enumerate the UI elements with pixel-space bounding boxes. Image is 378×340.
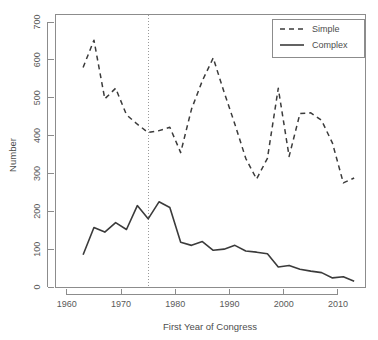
y-tick-label: 700	[32, 14, 42, 29]
y-tick-label: 300	[32, 166, 42, 181]
series-line-complex	[83, 202, 354, 282]
series-line-simple	[83, 40, 354, 183]
x-tick-label: 1990	[219, 299, 239, 309]
x-tick-label: 2000	[274, 299, 294, 309]
chart-legend: SimpleComplex	[273, 20, 365, 58]
x-tick-label: 1970	[111, 299, 131, 309]
x-tick-label: 2010	[328, 299, 348, 309]
x-axis: 196019701980199020002010	[57, 289, 348, 310]
y-tick-label: 200	[32, 204, 42, 219]
y-tick-label: 600	[32, 52, 42, 67]
y-tick-label: 500	[32, 90, 42, 105]
legend-label-simple: Simple	[312, 24, 340, 34]
line-chart: Number First Year of Congress 0100200300…	[0, 0, 378, 340]
x-tick-label: 1980	[165, 299, 185, 309]
y-axis-title: Number	[7, 138, 18, 172]
x-tick-label: 1960	[57, 299, 77, 309]
chart-container: Number First Year of Congress 0100200300…	[0, 0, 378, 340]
y-axis: 0100200300400500600700	[32, 14, 54, 289]
x-axis-title: First Year of Congress	[163, 321, 257, 332]
y-tick-label: 0	[32, 284, 42, 289]
series-layer	[83, 40, 354, 281]
y-tick-label: 400	[32, 128, 42, 143]
y-tick-label: 100	[32, 242, 42, 257]
legend-label-complex: Complex	[312, 40, 348, 50]
